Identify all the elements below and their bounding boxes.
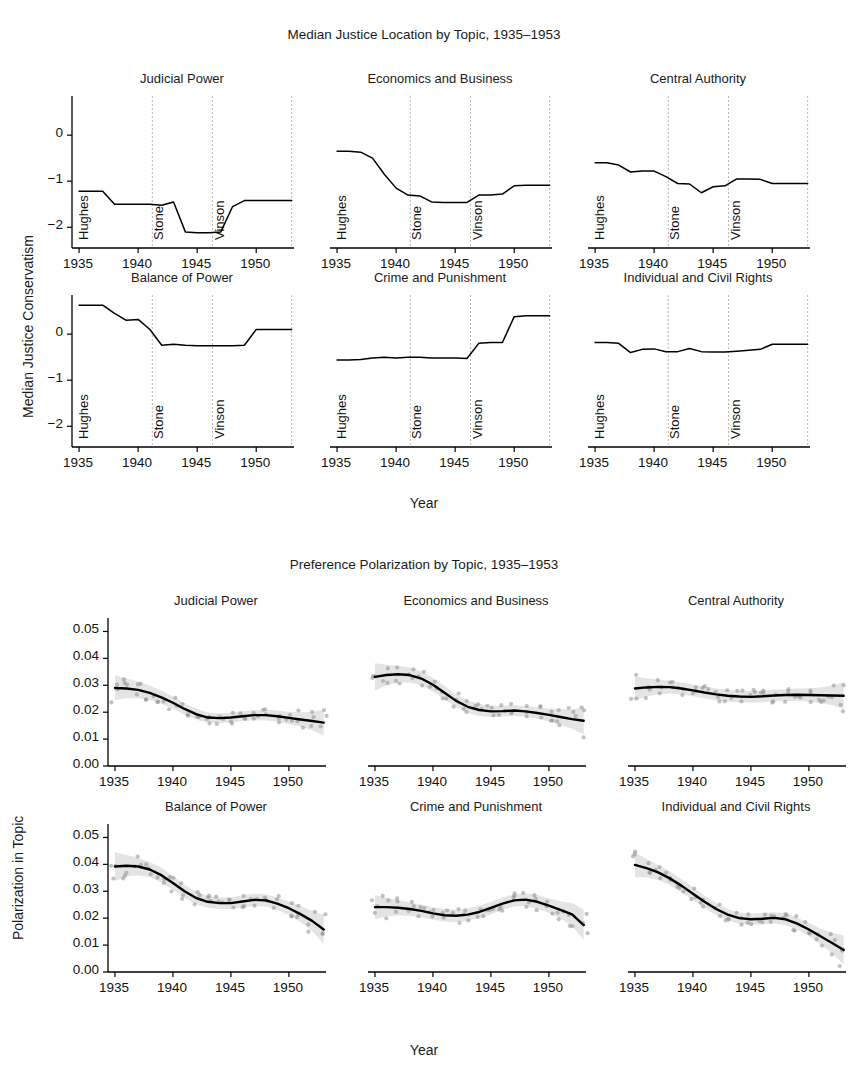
plot-area: HughesStoneVinson [329, 294, 553, 448]
y-tick-label: 0.03 [53, 881, 99, 896]
data-series-line [79, 305, 292, 346]
era-label-hughes: Hughes [76, 195, 91, 240]
y-tick-label: −2 [17, 416, 63, 431]
panel-crime-and-punishment: Crime and Punishment [367, 803, 585, 1011]
data-series-line [79, 191, 292, 232]
plot-area: HughesStoneVinson [329, 95, 553, 249]
data-series-line [595, 342, 808, 352]
era-label-stone: Stone [667, 206, 682, 240]
plot-area [627, 617, 847, 767]
scatter-points [631, 850, 845, 969]
panel-individual-and-civil-rights: Individual and Civil Rights [627, 803, 845, 1011]
confidence-band [115, 675, 324, 736]
plot-area [107, 823, 327, 973]
figure-page: Median Justice Location by Topic, 1935–1… [0, 0, 848, 1072]
era-label-stone: Stone [409, 405, 424, 439]
panel-economics-and-business: Economics and BusinessHughesStoneVinson [329, 75, 551, 287]
era-label-vinson: Vinson [470, 200, 485, 240]
y-tick-label: −1 [17, 171, 63, 186]
y-tick-label: 0.02 [53, 908, 99, 923]
panel-title: Economics and Business [329, 71, 551, 86]
panel-central-authority: Central Authority [627, 597, 845, 805]
panel-central-authority: Central AuthorityHughesStoneVinson [587, 75, 809, 287]
top-figure-title: Median Justice Location by Topic, 1935–1… [0, 27, 848, 42]
era-label-hughes: Hughes [76, 394, 91, 439]
bottom-figure-ylabel: Polarization in Topic [10, 816, 26, 940]
panel-title: Judicial Power [107, 593, 325, 608]
bottom-figure-title: Preference Polarization by Topic, 1935–1… [0, 557, 848, 572]
era-label-hughes: Hughes [334, 394, 349, 439]
y-tick-label: −2 [17, 217, 63, 232]
panel-economics-and-business: Economics and Business [367, 597, 585, 805]
era-label-vinson: Vinson [212, 200, 227, 240]
y-tick-label: 0.01 [53, 935, 99, 950]
y-tick-label: −1 [17, 370, 63, 385]
plot-area: HughesStoneVinson [71, 294, 295, 448]
plot-area [627, 823, 847, 973]
plot-area: HughesStoneVinson [587, 294, 811, 448]
y-tick-label: 0 [17, 324, 63, 339]
plot-area [367, 617, 587, 767]
panel-title: Central Authority [587, 71, 809, 86]
y-tick-label: 0.00 [53, 962, 99, 977]
panel-title: Central Authority [627, 593, 845, 608]
panel-judicial-power: Judicial Power [107, 597, 325, 805]
panel-balance-of-power: Balance of Power [107, 803, 325, 1011]
y-tick-label: 0.04 [53, 854, 99, 869]
panel-title: Crime and Punishment [329, 270, 551, 285]
y-tick-label: 0.02 [53, 702, 99, 717]
era-label-hughes: Hughes [334, 195, 349, 240]
panel-individual-and-civil-rights: Individual and Civil RightsHughesStoneVi… [587, 274, 809, 486]
era-label-vinson: Vinson [470, 399, 485, 439]
panel-crime-and-punishment: Crime and PunishmentHughesStoneVinson [329, 274, 551, 486]
bottom-figure: Preference Polarization by Topic, 1935–1… [0, 545, 848, 1072]
data-series-line [595, 163, 808, 193]
plot-area: HughesStoneVinson [71, 95, 295, 249]
era-label-hughes: Hughes [592, 394, 607, 439]
panel-title: Individual and Civil Rights [627, 799, 845, 814]
y-tick-label: 0.04 [53, 648, 99, 663]
panel-judicial-power: Judicial PowerHughesStoneVinson [71, 75, 293, 287]
panel-title: Balance of Power [71, 270, 293, 285]
panel-balance-of-power: Balance of PowerHughesStoneVinson [71, 274, 293, 486]
era-label-vinson: Vinson [728, 399, 743, 439]
panel-title: Individual and Civil Rights [587, 270, 809, 285]
y-tick-label: 0.03 [53, 675, 99, 690]
top-figure-xlabel: Year [0, 495, 848, 511]
panel-title: Balance of Power [107, 799, 325, 814]
era-label-vinson: Vinson [728, 200, 743, 240]
y-tick-label: 0.05 [53, 621, 99, 636]
plot-area: HughesStoneVinson [587, 95, 811, 249]
era-label-stone: Stone [151, 206, 166, 240]
panel-title: Judicial Power [71, 71, 293, 86]
era-label-stone: Stone [667, 405, 682, 439]
era-label-stone: Stone [151, 405, 166, 439]
y-tick-label: 0 [17, 125, 63, 140]
panel-title: Crime and Punishment [367, 799, 585, 814]
plot-area [367, 823, 587, 973]
data-series-line [337, 316, 550, 360]
plot-area [107, 617, 327, 767]
bottom-figure-xlabel: Year [0, 1042, 848, 1058]
y-tick-label: 0.00 [53, 756, 99, 771]
era-label-hughes: Hughes [592, 195, 607, 240]
confidence-band [635, 853, 844, 965]
data-series-line [337, 151, 550, 202]
era-label-vinson: Vinson [212, 399, 227, 439]
top-figure: Median Justice Location by Topic, 1935–1… [0, 0, 848, 520]
y-tick-label: 0.05 [53, 827, 99, 842]
era-label-stone: Stone [409, 206, 424, 240]
y-tick-label: 0.01 [53, 729, 99, 744]
panel-title: Economics and Business [367, 593, 585, 608]
